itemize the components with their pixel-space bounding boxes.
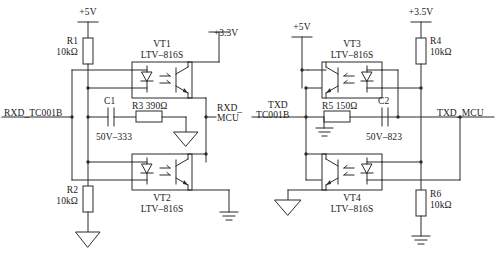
signal-label-txd-tc001b-line2: TC001B	[256, 110, 289, 120]
optocoupler-vt4-part: LTV–816S	[312, 204, 392, 215]
left-v5-rail	[78, 22, 98, 38]
resistor-r3-symbol	[136, 111, 186, 132]
right-v5-rail-label: +5V	[276, 22, 328, 33]
resistor-r1-name: R1	[30, 36, 78, 46]
signal-label-txd-mcu: TXD_MCU	[437, 108, 484, 119]
capacitor-c1-name: C1	[104, 96, 115, 107]
resistor-r1-symbol	[83, 38, 93, 186]
optocoupler-vt1-part: LTV–816S	[122, 50, 202, 61]
left-input-bus	[2, 70, 132, 180]
right-v35-rail	[411, 22, 431, 38]
resistor-r4-symbol	[416, 38, 426, 190]
ground-symbol-r2	[76, 232, 100, 247]
capacitor-c2-name: C2	[378, 96, 389, 107]
resistor-r2-name: R2	[30, 185, 78, 195]
optocoupler-vt1-name: VT1	[122, 39, 202, 50]
capacitor-c1-value: 50V–333	[96, 132, 132, 143]
optocoupler-vt1-package	[132, 62, 192, 98]
resistor-r5-symbol	[306, 111, 398, 122]
signal-label-rxd-mcu-line1: RXD_	[217, 103, 242, 113]
optocoupler-vt3-package	[322, 62, 382, 98]
optocoupler-vt3-name: VT3	[312, 39, 392, 50]
resistor-r5-label: R5 150Ω	[322, 101, 357, 112]
resistor-r6-name: R6	[430, 189, 441, 200]
resistor-r2-symbol	[83, 186, 93, 232]
left-output-node	[188, 98, 216, 162]
signal-label-txd-tc001b-line1: TXD	[268, 100, 288, 110]
resistor-r3-label: R3 390Ω	[132, 101, 167, 112]
capacitor-c2-value: 50V–823	[366, 132, 402, 143]
resistor-r4-value: 10kΩ	[430, 47, 452, 58]
resistor-r4-name: R4	[430, 36, 441, 47]
right-v35-rail-label: +3.5V	[395, 7, 447, 18]
optocoupler-vt2-package	[132, 154, 192, 190]
optocoupler-vt2-part: LTV–816S	[122, 204, 202, 215]
signal-label-rxd-tc001b: RXD_TC001B	[4, 108, 63, 119]
optocoupler-vt4-package	[322, 154, 382, 190]
resistor-r2-value: 10kΩ	[22, 196, 78, 206]
resistor-r1-value: 10kΩ	[22, 47, 78, 57]
ground-symbol-r3	[174, 132, 198, 146]
right-v5-rail	[292, 37, 312, 88]
resistor-r6-symbol	[412, 190, 430, 244]
optocoupler-vt2-name: VT2	[122, 193, 202, 204]
left-v5-rail-label: +5V	[62, 7, 114, 18]
resistor-r6-value: 10kΩ	[430, 200, 452, 211]
optocoupler-vt3-part: LTV–816S	[312, 50, 392, 61]
left-v33-rail-label: +3.3V	[200, 28, 252, 39]
circuit-diagram-canvas: +5V R1 10kΩ R2 10kΩ VT1 LTV–816S VT2 LTV…	[0, 0, 495, 269]
signal-label-rxd-mcu-line2: MCU	[217, 113, 239, 123]
optocoupler-vt4-name: VT4	[312, 193, 392, 204]
